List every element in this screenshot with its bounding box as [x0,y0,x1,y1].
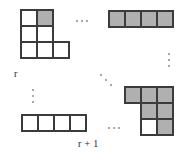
ellipsis-dot [32,95,34,97]
young-diagram-r [20,9,70,59]
math-figure-young-diagrams: rr + 1 [0,0,191,156]
label-r: r [14,68,18,79]
white-row-strip [21,114,87,132]
ellipsis-dot [32,101,34,103]
ellipsis-dot [110,84,112,86]
ellipsis-dot [168,59,170,61]
grid-cell-white [69,114,87,132]
ellipsis-dot [118,127,120,129]
ellipsis-dot [76,20,78,22]
ellipsis-dot [113,127,115,129]
ellipsis-dot [168,65,170,67]
ellipsis-dot [105,79,107,81]
ellipsis-dot [86,20,88,22]
grid-row [124,118,174,136]
ellipsis-dot [168,53,170,55]
label-r-plus-1: r + 1 [78,138,98,149]
ellipsis-dot [100,74,102,76]
grid-cell-shaded [156,118,174,136]
grid-cell-shaded [156,10,174,28]
grid-cell-white [52,41,70,59]
grid-row [20,41,70,59]
ellipsis-dot [32,89,34,91]
ellipsis-dot [81,20,83,22]
ellipsis-dot [108,127,110,129]
grid-row [21,114,87,132]
grid-row [108,10,174,28]
young-diagram-r-plus-1 [124,86,174,136]
shaded-row-strip [108,10,174,28]
